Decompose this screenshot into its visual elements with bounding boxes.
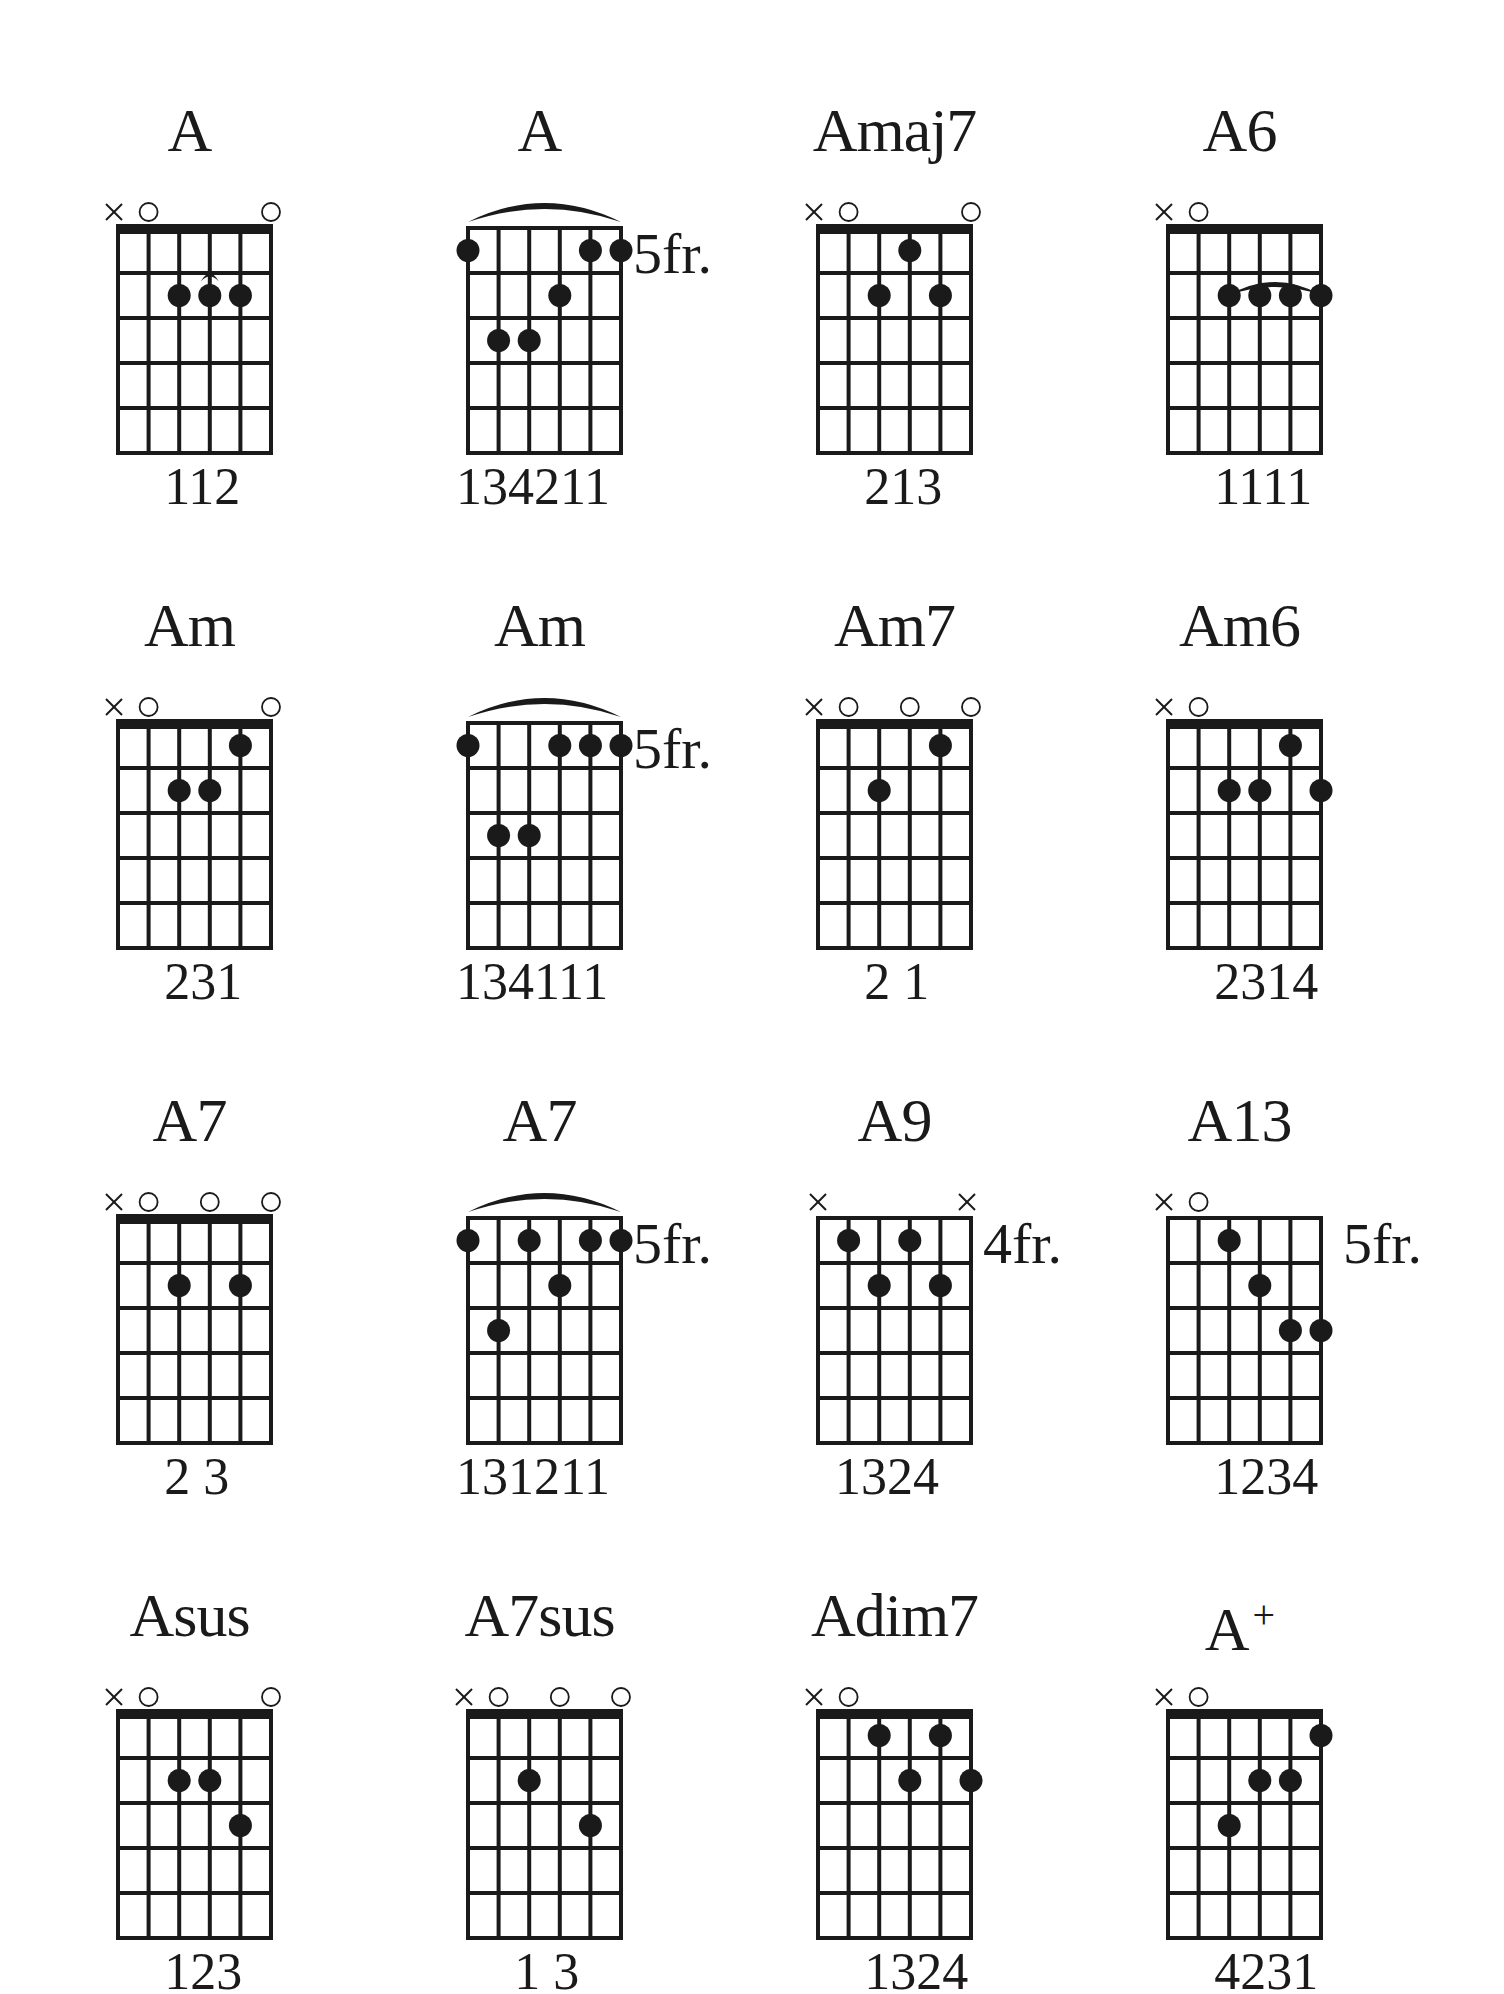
- chord-diagram: A7sus1 3: [428, 1580, 768, 1994]
- fret-position-label: 4fr.: [983, 1214, 1062, 1274]
- finger-dot: [198, 1769, 221, 1792]
- muted-string-icon: [1156, 699, 1172, 715]
- fretboard-grid: [1128, 590, 1468, 1010]
- finger-dot: [1218, 1229, 1241, 1252]
- finger-dot: [168, 779, 191, 802]
- nut: [116, 1709, 273, 1719]
- barre-arc-icon: [1229, 282, 1321, 295]
- fingering-numbers: 1324: [864, 1944, 968, 1994]
- finger-dot: [1310, 1724, 1333, 1747]
- chord-diagram: Amaj7213: [778, 95, 1118, 575]
- nut: [116, 719, 273, 729]
- fingering-numbers: 134111: [456, 954, 608, 1010]
- muted-string-icon: [806, 204, 822, 220]
- finger-dot: [487, 824, 510, 847]
- chord-diagram: A75fr.131211: [428, 1085, 768, 1565]
- finger-dot: [457, 1229, 480, 1252]
- finger-dot: [837, 1229, 860, 1252]
- muted-string-icon: [810, 1194, 826, 1210]
- open-string-icon: [840, 1688, 858, 1706]
- open-string-icon: [140, 1193, 158, 1211]
- fingering-numbers: 2 1: [864, 954, 929, 1010]
- finger-dot: [518, 1229, 541, 1252]
- nut: [1166, 1709, 1323, 1719]
- open-string-icon: [262, 1688, 280, 1706]
- finger-dot: [1248, 1274, 1271, 1297]
- finger-dot: [929, 1274, 952, 1297]
- finger-dot: [168, 284, 191, 307]
- fingering-numbers: 4231: [1214, 1944, 1318, 1994]
- fingering-numbers: 134211: [456, 459, 610, 515]
- muted-string-icon: [106, 699, 122, 715]
- muted-string-icon: [106, 1194, 122, 1210]
- finger-dot: [929, 734, 952, 757]
- finger-dot: [579, 1229, 602, 1252]
- fingering-numbers: 1234: [1214, 1449, 1318, 1505]
- nut: [116, 1214, 273, 1224]
- fretboard-grid: [78, 590, 418, 1010]
- fingering-numbers: 1 3: [514, 1944, 579, 1994]
- fret-position-label: 5fr.: [633, 224, 712, 284]
- fretboard-grid: [1128, 1580, 1468, 1994]
- open-string-icon: [140, 1688, 158, 1706]
- finger-dot: [168, 1274, 191, 1297]
- finger-dot: [1310, 1319, 1333, 1342]
- fretboard-grid: [778, 95, 1118, 515]
- finger-dot: [1218, 779, 1241, 802]
- finger-dot: [579, 1814, 602, 1837]
- finger-dot: [229, 1814, 252, 1837]
- muted-string-icon: [456, 1689, 472, 1705]
- finger-dot: [868, 1274, 891, 1297]
- finger-dot: [1310, 284, 1333, 307]
- nut: [816, 1709, 973, 1719]
- nut: [816, 719, 973, 729]
- finger-dot: [229, 1274, 252, 1297]
- fret-position-label: 5fr.: [633, 719, 712, 779]
- nut: [116, 224, 273, 234]
- finger-dot: [579, 239, 602, 262]
- open-string-icon: [840, 203, 858, 221]
- finger-dot: [1279, 1769, 1302, 1792]
- fretboard-grid: [78, 95, 418, 515]
- fingering-numbers: 2 3: [164, 1449, 229, 1505]
- finger-dot: [548, 1274, 571, 1297]
- open-string-icon: [262, 1193, 280, 1211]
- open-string-icon: [490, 1688, 508, 1706]
- finger-dot: [610, 239, 633, 262]
- muted-string-icon: [106, 204, 122, 220]
- muted-string-icon: [1156, 1194, 1172, 1210]
- nut: [1166, 224, 1323, 234]
- finger-dot: [610, 734, 633, 757]
- open-string-icon: [962, 203, 980, 221]
- finger-dot: [579, 734, 602, 757]
- finger-dot: [518, 824, 541, 847]
- finger-dot: [1310, 779, 1333, 802]
- chord-diagram: A+4231: [1128, 1580, 1468, 1994]
- muted-string-icon: [1156, 204, 1172, 220]
- fretboard-grid: [428, 1580, 768, 1994]
- finger-dot: [1218, 1814, 1241, 1837]
- chord-diagram: Am231: [78, 590, 418, 1070]
- fretboard-grid: [1128, 95, 1468, 515]
- open-string-icon: [901, 698, 919, 716]
- open-string-icon: [201, 1193, 219, 1211]
- chord-diagram: Adim71324: [778, 1580, 1118, 1994]
- fretboard-grid: [778, 1580, 1118, 1994]
- fingering-numbers: 2314: [1214, 954, 1318, 1010]
- fret-position-label: 5fr.: [633, 1214, 712, 1274]
- finger-dot: [868, 284, 891, 307]
- muted-string-icon: [806, 699, 822, 715]
- open-string-icon: [140, 203, 158, 221]
- fretboard-grid: [428, 1085, 768, 1505]
- finger-dot: [929, 284, 952, 307]
- finger-dot: [487, 1319, 510, 1342]
- fingering-numbers: 112: [164, 459, 240, 515]
- finger-dot: [868, 1724, 891, 1747]
- finger-dot: [518, 329, 541, 352]
- muted-string-icon: [1156, 1689, 1172, 1705]
- chord-diagram: A5fr.134211: [428, 95, 768, 575]
- finger-dot: [518, 1769, 541, 1792]
- finger-dot: [548, 734, 571, 757]
- muted-string-icon: [959, 1194, 975, 1210]
- fretboard-grid: [78, 1085, 418, 1505]
